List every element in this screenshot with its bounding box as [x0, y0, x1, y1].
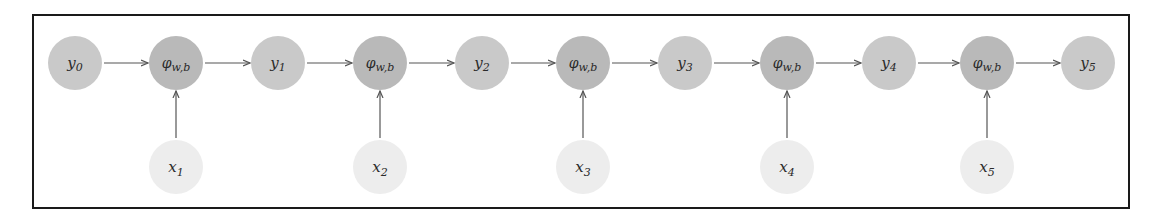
node-x5: x5	[960, 140, 1014, 194]
node-x2: x2	[353, 140, 407, 194]
node-x1: x1	[149, 140, 203, 194]
node-y2: y2	[455, 36, 509, 90]
node-y1: y1	[251, 36, 305, 90]
node-phi1: φw,b	[149, 36, 203, 90]
node-phi4: φw,b	[760, 36, 814, 90]
node-y5: y5	[1061, 36, 1115, 90]
node-phi3: φw,b	[556, 36, 610, 90]
node-x3: x3	[556, 140, 610, 194]
node-y0: y0	[48, 36, 102, 90]
node-x4: x4	[760, 140, 814, 194]
computation-graph: y0y1y2y3y4y5φw,bφw,bφw,bφw,bφw,bx1x2x3x4…	[0, 0, 1161, 217]
node-phi5: φw,b	[960, 36, 1014, 90]
node-y3: y3	[658, 36, 712, 90]
nodes: y0y1y2y3y4y5φw,bφw,bφw,bφw,bφw,bx1x2x3x4…	[48, 36, 1115, 194]
node-phi2: φw,b	[353, 36, 407, 90]
node-y4: y4	[862, 36, 916, 90]
